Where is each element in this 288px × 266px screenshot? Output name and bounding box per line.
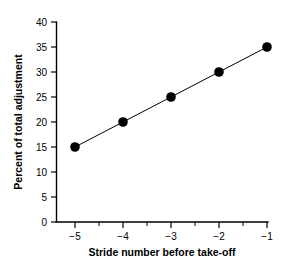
y-tick-label: 30	[36, 67, 48, 78]
y-tick-label: 5	[41, 192, 47, 203]
line-chart: 0 5 10 15 20 25 30 35 40 −5 −	[0, 0, 288, 266]
y-tick-label: 40	[36, 17, 48, 28]
x-tick-label: −1	[261, 231, 273, 242]
x-axis-title: Stride number before take-off	[88, 246, 236, 258]
chart-figure: 0 5 10 15 20 25 30 35 40 −5 −	[0, 0, 288, 266]
y-axis-title: Percent of total adjustment	[12, 54, 24, 190]
y-tick-label: 10	[36, 167, 48, 178]
y-tick-label: 0	[41, 217, 47, 228]
data-point	[262, 42, 272, 52]
y-tick-label: 35	[36, 42, 48, 53]
y-tick-label: 15	[36, 142, 48, 153]
y-tick-label: 20	[36, 117, 48, 128]
x-tick-label: −5	[69, 231, 81, 242]
x-tick-label: −2	[213, 231, 225, 242]
data-point	[166, 92, 176, 102]
data-point	[118, 117, 128, 127]
x-tick-label: −4	[117, 231, 129, 242]
data-point	[214, 67, 224, 77]
y-tick-label: 25	[36, 92, 48, 103]
x-tick-label: −3	[165, 231, 177, 242]
data-point	[70, 142, 80, 152]
